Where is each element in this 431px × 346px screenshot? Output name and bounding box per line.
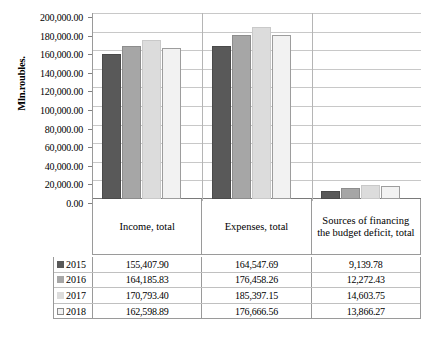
bar-2018-1 xyxy=(272,35,291,199)
table-cell-expenses: 164,547.69 xyxy=(202,257,311,272)
table-cell-expenses: 185,397.15 xyxy=(202,288,311,303)
plot-area xyxy=(92,13,420,199)
legend-cell-2015: 2015 xyxy=(54,257,93,272)
category-label-0: Income, total xyxy=(93,199,202,254)
category-label-2: Sources of financing the budget deficit,… xyxy=(312,199,420,254)
legend-swatch-icon xyxy=(57,292,64,299)
legend-cell-2017: 2017 xyxy=(54,288,93,303)
y-tick-label: 140,000.00 xyxy=(40,69,83,79)
table-cell-deficit: 9,139.78 xyxy=(312,257,420,272)
bar-2016-2 xyxy=(341,188,360,199)
category-label-row: Income, totalExpenses, totalSources of f… xyxy=(92,199,421,255)
table-row: 2016164,185.83176,458.2612,272.43 xyxy=(54,273,420,289)
legend-cell-2018: 2018 xyxy=(54,304,93,320)
bar-2017-1 xyxy=(252,27,271,199)
table-cell-deficit: 14,603.75 xyxy=(312,288,420,303)
y-tick-label: 0.00 xyxy=(66,199,83,209)
y-tick-label: 80,000.00 xyxy=(45,125,83,135)
bar-2017-2 xyxy=(361,185,380,199)
table-cell-expenses: 176,458.26 xyxy=(202,273,311,288)
table-cell-income: 164,185.83 xyxy=(93,273,202,288)
table-cell-income: 170,793.40 xyxy=(93,288,202,303)
category-separator xyxy=(202,13,203,201)
gridline xyxy=(93,13,421,14)
category-separator xyxy=(312,13,313,201)
table-cell-deficit: 12,272.43 xyxy=(312,273,420,288)
y-tick-label: 160,000.00 xyxy=(40,50,83,60)
bar-2017-0 xyxy=(142,40,161,199)
legend-year-label: 2015 xyxy=(66,259,86,270)
table-cell-income: 155,407.90 xyxy=(93,257,202,272)
table-cell-deficit: 13,866.27 xyxy=(312,304,420,320)
table-row: 2018162,598.89176,666.5613,866.27 xyxy=(54,304,420,320)
legend-cell-2016: 2016 xyxy=(54,273,93,288)
bar-2016-1 xyxy=(232,35,251,199)
legend-swatch-icon xyxy=(57,276,64,283)
legend-swatch-icon xyxy=(57,308,64,315)
y-tick-label: 200,000.00 xyxy=(40,13,83,23)
legend-year-label: 2016 xyxy=(66,274,86,285)
bar-2018-2 xyxy=(381,186,400,199)
table-cell-expenses: 176,666.56 xyxy=(202,304,311,320)
bar-2016-0 xyxy=(122,46,141,199)
y-tick-label: 20,000.00 xyxy=(45,180,83,190)
bar-2015-2 xyxy=(321,191,340,199)
y-tick-label: 180,000.00 xyxy=(40,32,83,42)
table-cell-income: 162,598.89 xyxy=(93,304,202,320)
y-tick-label: 60,000.00 xyxy=(45,143,83,153)
bar-2018-0 xyxy=(162,48,181,199)
y-tick-label: 120,000.00 xyxy=(40,87,83,97)
table-row: 2017170,793.40185,397.1514,603.75 xyxy=(54,288,420,304)
bar-2015-1 xyxy=(212,46,231,199)
y-tick-label: 40,000.00 xyxy=(45,162,83,172)
category-label-1: Expenses, total xyxy=(202,199,311,254)
table-row: 2015155,407.90164,547.699,139.78 xyxy=(54,257,420,273)
figure-caption-clipped xyxy=(0,340,431,346)
legend-swatch-icon xyxy=(57,261,64,268)
budget-bar-chart-figure: Mln.roubles. 200,000.00180,000.00160,000… xyxy=(0,0,431,346)
legend-year-label: 2018 xyxy=(66,306,86,317)
y-axis-tick-labels: 200,000.00180,000.00160,000.00140,000.00… xyxy=(0,8,88,202)
bar-2015-0 xyxy=(102,54,121,199)
y-tick-label: 100,000.00 xyxy=(40,106,83,116)
legend-year-label: 2017 xyxy=(66,290,86,301)
data-table: 2015155,407.90164,547.699,139.782016164,… xyxy=(53,257,421,319)
